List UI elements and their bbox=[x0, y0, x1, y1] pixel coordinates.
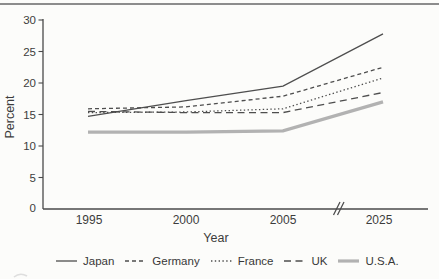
legend-label-uk: UK bbox=[311, 255, 327, 267]
scan-artifact bbox=[14, 274, 27, 277]
ytick-10: 10 bbox=[23, 140, 36, 152]
legend-label-germany: Germany bbox=[152, 255, 199, 267]
legend-item-usa: U.S.A. bbox=[337, 255, 398, 267]
uk-line-swatch bbox=[283, 257, 306, 265]
legend-item-germany: Germany bbox=[124, 255, 199, 267]
series-line-usa bbox=[88, 102, 383, 132]
legend-label-japan: Japan bbox=[83, 255, 114, 267]
japan-line-swatch bbox=[55, 257, 78, 265]
ytick-25: 25 bbox=[23, 46, 36, 58]
xtick-1995: 1995 bbox=[76, 213, 103, 227]
xtick-2025: 2025 bbox=[366, 213, 393, 227]
usa-line-swatch bbox=[337, 257, 360, 265]
ytick-15: 15 bbox=[23, 109, 36, 121]
figure-page: 30 25 20 15 10 5 0 1995 2000 2005 2025 P… bbox=[0, 0, 439, 279]
x-axis-title: Year bbox=[203, 231, 228, 245]
legend-item-uk: UK bbox=[283, 255, 327, 267]
xtick-2000: 2000 bbox=[173, 213, 200, 227]
xtick-2005: 2005 bbox=[270, 213, 297, 227]
legend-label-usa: U.S.A. bbox=[365, 255, 398, 267]
chart-legend: Japan Germany France UK U.S.A. bbox=[55, 253, 399, 269]
line-chart: 30 25 20 15 10 5 0 1995 2000 2005 2025 P… bbox=[0, 0, 439, 279]
series-lines-group bbox=[88, 34, 383, 132]
germany-line-swatch bbox=[124, 257, 147, 265]
legend-item-france: France bbox=[210, 255, 274, 267]
france-line-swatch bbox=[210, 257, 233, 265]
series-line-germany bbox=[88, 67, 383, 109]
ytick-30: 30 bbox=[23, 14, 36, 26]
ytick-20: 20 bbox=[23, 77, 36, 89]
legend-item-japan: Japan bbox=[55, 255, 114, 267]
ytick-5: 5 bbox=[30, 172, 36, 184]
legend-label-france: France bbox=[238, 255, 274, 267]
y-axis-ticks bbox=[39, 20, 44, 178]
ytick-0: 0 bbox=[30, 202, 36, 214]
y-axis-title: Percent bbox=[3, 95, 17, 139]
series-line-japan bbox=[88, 34, 383, 117]
